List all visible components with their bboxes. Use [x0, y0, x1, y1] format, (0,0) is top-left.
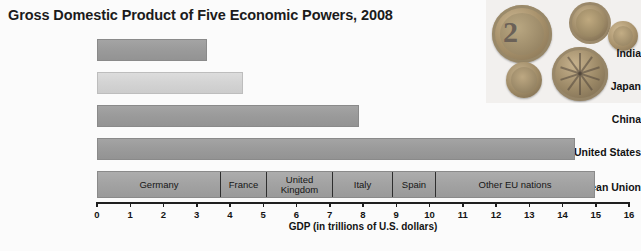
x-tick-label-6: 6 [294, 210, 299, 220]
category-label-china: China [551, 114, 641, 125]
x-tick-8 [362, 202, 364, 207]
bar-european-union: Germany France United Kingdom Italy Spai… [97, 171, 595, 198]
x-tick-3 [196, 202, 198, 207]
x-tick-label-9: 9 [394, 210, 399, 220]
segment-united-kingdom: United Kingdom [267, 172, 333, 197]
x-tick-label-4: 4 [227, 210, 232, 220]
x-axis-title: GDP (in trillions of U.S. dollars) [289, 222, 438, 232]
segment-france: France [221, 172, 267, 197]
x-tick-label-10: 10 [424, 210, 435, 220]
x-tick-label-15: 15 [590, 210, 601, 220]
x-tick-5 [263, 202, 265, 207]
x-tick-label-16: 16 [624, 210, 635, 220]
x-tick-4 [229, 202, 231, 207]
x-tick-9 [396, 202, 398, 207]
x-tick-6 [296, 202, 298, 207]
chart-title: Gross Domestic Product of Five Economic … [8, 7, 393, 23]
x-tick-label-2: 2 [161, 210, 166, 220]
x-tick-label-5: 5 [261, 210, 266, 220]
chart-figure: Gross Domestic Product of Five Economic … [0, 0, 641, 251]
x-tick-label-8: 8 [360, 210, 365, 220]
x-tick-label-11: 11 [458, 210, 468, 220]
bar-china [97, 105, 359, 127]
x-tick-12 [495, 202, 497, 207]
x-tick-2 [163, 202, 165, 207]
x-tick-label-12: 12 [491, 210, 502, 220]
category-label-india: India [551, 48, 641, 59]
bar-japan [97, 72, 243, 94]
x-tick-1 [130, 202, 132, 207]
x-tick-label-7: 7 [327, 210, 332, 220]
segment-spain: Spain [393, 172, 436, 197]
x-tick-label-0: 0 [94, 210, 99, 220]
category-label-japan: Japan [551, 81, 641, 92]
x-tick-label-1: 1 [128, 210, 133, 220]
x-tick-label-14: 14 [557, 210, 568, 220]
x-tick-0 [96, 202, 98, 207]
x-tick-7 [329, 202, 331, 207]
segment-germany: Germany [98, 172, 221, 197]
x-tick-10 [429, 202, 431, 207]
plot-area: India Japan China United States European… [0, 30, 641, 251]
x-tick-16 [628, 202, 630, 207]
x-tick-15 [595, 202, 597, 207]
segment-italy: Italy [333, 172, 393, 197]
x-tick-label-13: 13 [524, 210, 535, 220]
x-tick-label-3: 3 [194, 210, 199, 220]
bar-india [97, 39, 207, 61]
x-tick-14 [562, 202, 564, 207]
segment-other-eu-nations: Other EU nations [436, 172, 594, 197]
x-tick-13 [529, 202, 531, 207]
bar-united-states [97, 138, 575, 160]
x-tick-11 [462, 202, 464, 207]
